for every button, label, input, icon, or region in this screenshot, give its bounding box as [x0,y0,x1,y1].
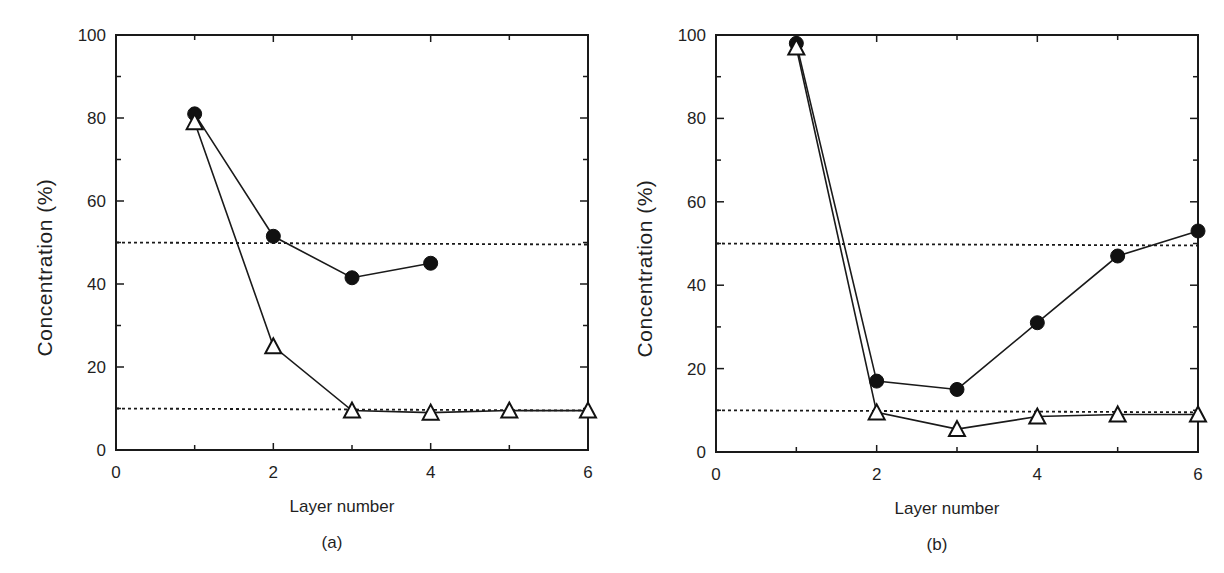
y-tick-label: 100 [78,26,106,45]
filled-circle-marker [1111,249,1125,263]
series-line [796,43,1198,389]
open-triangle-marker [869,404,885,419]
y-tick-label: 40 [687,276,706,295]
x-tick-label: 4 [1033,465,1042,484]
x-tick-label: 4 [426,463,435,482]
y-tick-label: 20 [687,360,706,379]
series-line [796,48,1198,430]
chart-panel-a: 0246020406080100Concentration (%)Layer n… [0,0,612,573]
filled-circle-marker [424,256,438,270]
series-line [195,114,431,278]
x-tick-label: 2 [269,463,278,482]
filled-circle-marker [1191,224,1205,238]
x-tick-label: 6 [583,463,592,482]
reference-line [716,410,1198,412]
y-tick-label: 60 [687,193,706,212]
x-tick-label: 6 [1193,465,1202,484]
panel-caption: (a) [322,533,343,552]
x-tick-label: 2 [872,465,881,484]
reference-line [716,244,1198,246]
filled-circle-marker [345,271,359,285]
chart-panel-b: 0246020406080100Concentration (%)Layer n… [600,0,1224,573]
x-axis-title: Layer number [895,499,1000,518]
y-tick-label: 100 [678,26,706,45]
x-axis-title: Layer number [290,497,395,516]
filled-circle-marker [1030,316,1044,330]
y-tick-label: 80 [687,109,706,128]
chart-a-svg: 0246020406080100Concentration (%)Layer n… [0,0,612,573]
reference-line [116,243,588,245]
open-triangle-marker [265,338,281,353]
filled-circle-marker [870,374,884,388]
panel-caption: (b) [927,535,948,554]
chart-b-svg: 0246020406080100Concentration (%)Layer n… [600,0,1224,573]
y-axis-title: Concentration (%) [33,179,56,357]
plot-frame [116,35,588,450]
y-tick-label: 80 [87,109,106,128]
y-tick-label: 60 [87,192,106,211]
filled-circle-marker [950,382,964,396]
series-line [195,122,588,413]
x-tick-label: 0 [111,463,120,482]
y-tick-label: 0 [97,441,106,460]
filled-circle-marker [266,229,280,243]
y-axis-title: Concentration (%) [633,180,656,358]
y-tick-label: 20 [87,358,106,377]
y-tick-label: 40 [87,275,106,294]
y-tick-label: 0 [697,443,706,462]
x-tick-label: 0 [711,465,720,484]
